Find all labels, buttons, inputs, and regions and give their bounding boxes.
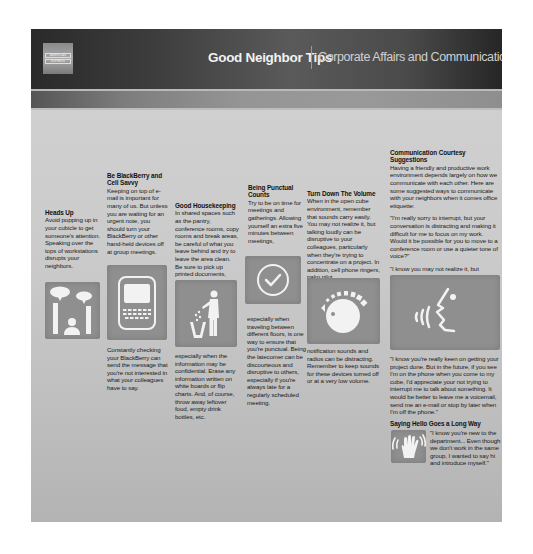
tip-text: In shared spaces such as the pantry, con… [175,209,239,277]
tip-text: Constantly checking your BlackBerry can … [107,346,171,392]
tip-saying-hello-heading: Saying Hello Goes a Long Way [390,420,502,427]
quote-3: "I know you're really keen on getting yo… [390,355,502,416]
blackberry-phone-icon [107,265,167,340]
tip-text: When in the open cube environment, remem… [307,197,381,281]
tip-text: Having a friendly and productive work en… [390,164,500,210]
logo-line-1: AMERICAN [45,53,71,58]
tip-heading: Heads Up [45,209,101,216]
title-divider [311,46,312,69]
waving-hand-icon [391,430,426,463]
tip-communication-continued: "I know you're really keen on getting yo… [390,355,502,421]
tip-text: Avoid popping up in your cubicle to get … [45,216,101,269]
tip-heading: Be BlackBerry and Cell Savvy [107,172,169,187]
tip-punctual: Being Punctual Counts Try to be on time … [248,184,308,249]
tip-volume-continued: notification sounds and radios can be di… [307,347,383,390]
tip-text: especially when traveling between differ… [247,315,309,406]
quote-1: "I'm really sorry to interrupt, but your… [390,214,500,260]
logo-line-2: EXPRESS [45,59,71,64]
checkmark-circle-icon [245,256,301,304]
tip-housekeeping-continued: especially when the information may be c… [175,352,241,425]
tip-heading: Communication Courtesy Suggestions [390,149,500,164]
tip-text: notification sounds and radios can be di… [307,347,383,385]
trash-bin-person-icon [175,280,237,347]
tip-heading: Good Housekeeping [175,202,239,209]
poster: AMERICAN EXPRESS Good Neighbor Tips Corp… [31,29,502,522]
band-divider [31,108,502,110]
tip-blackberry: Be BlackBerry and Cell Savvy Keeping on … [107,172,169,260]
tip-text: "I know you're new to the department... … [430,429,502,467]
tip-saying-hello: "I know you're new to the department... … [430,429,502,472]
tip-volume: Turn Down The Volume When in the open cu… [307,190,381,286]
tip-text: especially when the information may be c… [175,352,241,420]
volume-knob-icon [307,278,380,344]
company-logo: AMERICAN EXPRESS [43,43,73,74]
tip-heading: Being Punctual Counts [248,184,308,199]
speech-bubbles-person-icon [45,282,100,339]
tip-text: Try to be on time for meetings and gathe… [248,199,308,245]
tip-housekeeping: Good Housekeeping In shared spaces such … [175,202,239,283]
page-subtitle: Corporate Affairs and Communications [318,50,502,64]
tip-blackberry-continued: Constantly checking your BlackBerry can … [107,346,171,397]
speaking-face-icon [390,275,500,350]
decorative-band [31,91,502,108]
tip-punctual-continued: especially when traveling between differ… [247,315,309,411]
tip-heading: Saying Hello Goes a Long Way [390,420,502,427]
tip-heading: Turn Down The Volume [307,190,381,197]
tip-heads-up: Heads Up Avoid popping up in your cubicl… [45,209,101,275]
header-bar: AMERICAN EXPRESS Good Neighbor Tips Corp… [31,29,502,89]
page-title: Good Neighbor Tips [208,50,332,65]
tip-text: Keeping on top of e-mail is important fo… [107,187,169,255]
